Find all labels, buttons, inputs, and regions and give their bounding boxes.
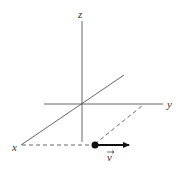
y-axis-label: y (166, 98, 172, 110)
x-axis-label: x (11, 141, 17, 153)
z-axis-label: z (77, 8, 83, 20)
x-axis (21, 75, 124, 145)
coordinate-diagram: z y x v (0, 0, 184, 173)
vector-label: v (107, 151, 112, 163)
dashed-projection-y (95, 105, 143, 144)
